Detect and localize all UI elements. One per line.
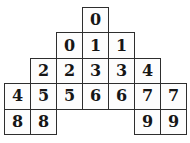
digit-cell: 3 <box>82 58 109 84</box>
digit-pyramid-figure: 0 0 1 1 2 2 3 3 4 4 5 5 6 6 7 7 8 8 9 9 <box>4 7 186 134</box>
digit-cell: 9 <box>134 109 161 135</box>
digit-cell: 2 <box>30 58 57 84</box>
digit-cell: 5 <box>30 83 57 109</box>
digit-cell: 3 <box>108 58 135 84</box>
digit-cell: 1 <box>82 32 109 58</box>
digit-cell: 9 <box>160 109 187 135</box>
digit-cell: 0 <box>82 7 109 33</box>
digit-cell: 0 <box>56 32 83 58</box>
digit-cell: 5 <box>56 83 83 109</box>
digit-cell: 2 <box>56 58 83 84</box>
digit-cell: 4 <box>134 58 161 84</box>
digit-cell: 6 <box>108 83 135 109</box>
digit-cell: 8 <box>4 109 31 135</box>
digit-cell: 8 <box>30 109 57 135</box>
digit-cell: 7 <box>160 83 187 109</box>
digit-cell: 1 <box>108 32 135 58</box>
digit-cell: 4 <box>4 83 31 109</box>
digit-cell: 7 <box>134 83 161 109</box>
digit-cell: 6 <box>82 83 109 109</box>
